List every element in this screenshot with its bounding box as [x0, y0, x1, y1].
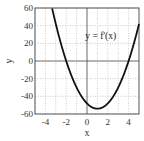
y-tick-label: 20	[24, 38, 34, 48]
x-tick-label: 0	[85, 117, 90, 127]
curve-annotation: y = f'(x)	[85, 31, 116, 42]
x-axis-label: x	[85, 127, 90, 138]
series-line	[52, 8, 139, 108]
x-tick-label: 4	[126, 117, 131, 127]
y-tick-label: -20	[21, 74, 33, 84]
x-tick-label: -2	[62, 117, 70, 127]
y-tick-label: -40	[21, 91, 33, 101]
y-tick-label: 40	[24, 21, 34, 31]
chart: -4-2024-60-40-200204060xyy = f'(x)	[0, 0, 144, 141]
x-tick-label: 2	[106, 117, 111, 127]
y-axis-label: y	[3, 59, 14, 64]
y-tick-label: 60	[24, 3, 34, 13]
y-tick-label: -60	[21, 109, 33, 119]
x-tick-label: -4	[42, 117, 50, 127]
y-tick-label: 0	[29, 56, 34, 66]
